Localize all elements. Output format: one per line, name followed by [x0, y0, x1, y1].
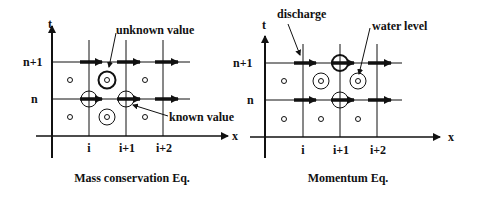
momentum-diagram — [250, 24, 440, 158]
known-water-level-circle — [313, 73, 329, 89]
col-label-i: i — [301, 143, 305, 157]
diagram-canvas: t x n+1 n i i+1 i+2 unknown value known … — [0, 0, 479, 198]
mass-conservation-diagram — [36, 26, 228, 158]
known-value-label: known value — [169, 110, 235, 124]
mass-conservation-title: Mass conservation Eq. — [74, 171, 190, 185]
row-label-n: n — [31, 92, 38, 106]
t-axis-label: t — [262, 18, 266, 32]
col-label-i1: i+1 — [333, 143, 349, 157]
x-axis-label: x — [232, 129, 238, 143]
x-axis-label: x — [448, 130, 454, 144]
water-level-label: water level — [372, 19, 428, 33]
discharge-pointer — [288, 24, 300, 55]
row-label-n1: n+1 — [233, 56, 253, 70]
row-label-n1: n+1 — [23, 55, 43, 69]
mass-conservation-labels: t x n+1 n i i+1 i+2 unknown value known … — [23, 17, 238, 185]
known-value-circle — [99, 109, 115, 125]
unknown-value-label: unknown value — [116, 23, 195, 37]
col-label-i: i — [87, 141, 91, 155]
unknown-value-circle — [99, 72, 116, 89]
known-water-level-circle — [350, 73, 366, 89]
discharge-label: discharge — [277, 7, 327, 21]
momentum-title: Momentum Eq. — [308, 171, 389, 185]
col-label-i1: i+1 — [119, 141, 135, 155]
momentum-labels: t x n+1 n i i+1 i+2 discharge water leve… — [233, 7, 454, 185]
col-label-i2: i+2 — [370, 143, 386, 157]
t-axis-label: t — [48, 17, 52, 31]
col-label-i2: i+2 — [156, 141, 172, 155]
discharge-arrows — [294, 63, 391, 100]
water-level-pointer — [359, 28, 370, 74]
row-label-n: n — [247, 93, 254, 107]
